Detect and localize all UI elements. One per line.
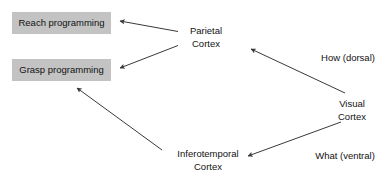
edge-parietal-to-reach [120, 21, 178, 32]
node-inferotemporal-cortex-line1: Inferotemporal [177, 148, 238, 159]
node-inferotemporal-cortex: Inferotemporal Cortex [177, 148, 238, 173]
box-grasp-programming: Grasp programming [12, 59, 111, 81]
node-parietal-cortex: Parietal Cortex [190, 25, 222, 50]
node-visual-cortex-line1: Visual [339, 98, 365, 109]
node-parietal-cortex-line1: Parietal [190, 25, 222, 36]
node-parietal-cortex-line2: Cortex [190, 38, 222, 51]
node-visual-cortex: Visual Cortex [338, 98, 366, 123]
two-streams-diagram: Reach programming Grasp programming Pari… [0, 0, 384, 179]
node-visual-cortex-line2: Cortex [338, 111, 366, 124]
edge-parietal-to-grasp [120, 46, 178, 69]
edge-label-what-ventral: What (ventral) [315, 150, 375, 162]
edge-label-how-dorsal: How (dorsal) [321, 52, 375, 64]
edge-inferotemporal-to-grasp [77, 88, 162, 150]
node-inferotemporal-cortex-line2: Cortex [177, 161, 238, 174]
box-reach-programming: Reach programming [12, 12, 111, 34]
